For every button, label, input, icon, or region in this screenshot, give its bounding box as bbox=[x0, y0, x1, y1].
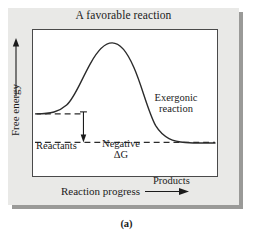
delta-g-label-line2: ΔG bbox=[114, 149, 128, 160]
y-axis: Free energy bbox=[2, 38, 28, 172]
reaction-type-label-line2: reaction bbox=[159, 103, 193, 114]
plot-area: Reactants Negative ΔG Exergonic reaction… bbox=[32, 29, 218, 177]
figure-title: A favorable reaction bbox=[8, 9, 239, 21]
delta-g-arrow-icon bbox=[80, 112, 87, 143]
figure-caption: (a) bbox=[0, 218, 253, 229]
reaction-type-label: Exergonic reaction bbox=[141, 92, 211, 115]
y-axis-label: Free energy bbox=[9, 61, 21, 159]
x-axis-label: Reaction progress bbox=[61, 185, 140, 197]
x-axis: Reaction progress bbox=[32, 180, 218, 202]
reaction-coordinate-figure: A favorable reaction Free energy Reactan… bbox=[0, 0, 253, 241]
delta-g-label-line1: Negative bbox=[102, 138, 140, 149]
x-axis-arrow-icon bbox=[145, 187, 189, 196]
reactants-label: Reactants bbox=[36, 140, 77, 151]
delta-g-label: Negative ΔG bbox=[90, 138, 152, 161]
reaction-type-label-line1: Exergonic bbox=[155, 92, 198, 103]
